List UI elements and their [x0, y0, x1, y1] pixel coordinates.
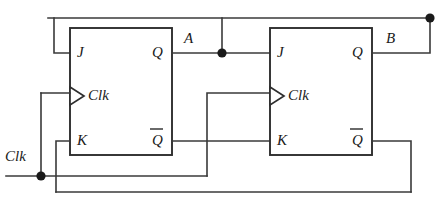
junction-dot-b [425, 13, 434, 22]
circuit-svg [0, 0, 439, 203]
ff1-q-label: Q [152, 43, 163, 61]
ff2-clk-label: Clk [288, 86, 309, 104]
ff2-q-label: Q [352, 43, 363, 61]
junction-dot-a [217, 48, 226, 57]
wire-clk2-route [207, 93, 270, 176]
ff1-qbar-label: Q [152, 131, 163, 149]
ff2-qbar-label: Q [352, 131, 363, 149]
ff1-k-label: K [77, 131, 87, 149]
net-label-a: A [184, 29, 193, 47]
wire-q2-to-b [372, 18, 430, 53]
ff2-k-label: K [277, 131, 287, 149]
ff1-clk-label: Clk [88, 86, 109, 104]
clock-input-label: Clk [5, 147, 26, 165]
net-label-b: B [386, 29, 395, 47]
ff1-j-label: J [77, 43, 84, 61]
wire-j1-input [54, 18, 70, 53]
schematic-canvas: J Clk K Q Q J Clk K Q Q A B Clk [0, 0, 439, 203]
junction-dot-clk [36, 171, 45, 180]
ff2-j-label: J [277, 43, 284, 61]
wire-k1-route [56, 141, 70, 192]
wire-q2bar-feedback [372, 141, 411, 192]
